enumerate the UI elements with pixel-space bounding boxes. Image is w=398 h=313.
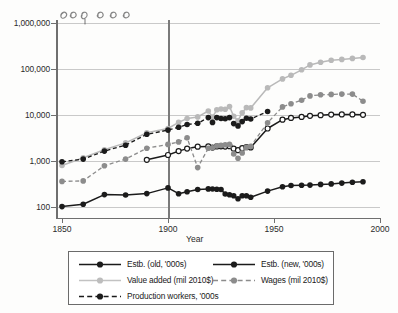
series-wages-mil-2010: [59, 91, 366, 184]
data-point: [176, 120, 182, 126]
data-point: [329, 112, 334, 117]
data-point: [235, 155, 241, 161]
data-point: [248, 143, 254, 149]
data-point: [176, 139, 182, 145]
data-point: [280, 117, 285, 122]
data-point: [227, 142, 233, 148]
data-point: [288, 101, 294, 107]
data-point: [206, 108, 212, 114]
legend-swatch-production-workers: [77, 290, 123, 303]
data-point: [248, 116, 254, 122]
legend-label-wages: Wages (mil 2010$): [261, 275, 328, 285]
data-point: [176, 149, 181, 154]
data-point: [350, 180, 356, 186]
handwritten-scribble-icon: [58, 8, 178, 26]
data-point: [265, 126, 270, 131]
data-point: [339, 180, 345, 186]
legend-label-production-workers: Production workers, '000s: [127, 291, 218, 301]
series-layer: [0, 0, 398, 240]
data-point: [123, 142, 129, 148]
data-point: [307, 182, 313, 188]
data-point: [80, 156, 86, 162]
data-point: [318, 92, 324, 98]
data-point: [328, 92, 334, 98]
data-point: [176, 125, 182, 131]
data-point: [59, 159, 65, 165]
data-point: [350, 91, 356, 97]
data-point: [318, 113, 323, 118]
data-point: [280, 184, 286, 190]
data-point: [265, 120, 271, 126]
data-point: [123, 156, 129, 162]
data-point: [360, 98, 366, 104]
data-point: [80, 201, 86, 207]
data-point: [235, 123, 241, 129]
data-point: [299, 114, 304, 119]
data-point: [123, 192, 129, 198]
series-estb-new-000s: [144, 112, 365, 162]
data-point: [350, 112, 355, 117]
data-point: [280, 76, 286, 82]
data-point: [165, 142, 171, 148]
data-point: [339, 112, 344, 117]
data-point: [227, 115, 233, 121]
data-point: [339, 91, 345, 97]
data-point: [307, 62, 313, 68]
data-point: [166, 153, 171, 158]
legend-label-estb-new: Estb. (new, '000s): [261, 259, 324, 269]
data-point: [231, 151, 237, 157]
data-point: [299, 97, 305, 103]
data-point: [165, 127, 171, 133]
data-point: [318, 182, 324, 188]
data-point: [350, 56, 356, 62]
data-point: [239, 110, 245, 116]
data-point: [184, 135, 190, 141]
data-point: [184, 116, 190, 122]
data-point: [308, 113, 313, 118]
data-point: [318, 60, 324, 66]
data-point: [239, 150, 245, 156]
data-point: [288, 73, 294, 79]
data-point: [195, 144, 200, 149]
data-point: [185, 146, 190, 151]
series-estb-old-000s: [59, 179, 366, 210]
data-point: [102, 163, 108, 169]
legend-swatch-estb-old: [77, 258, 123, 271]
data-point: [59, 179, 65, 185]
data-point: [361, 112, 366, 117]
legend-label-value-added: Value added (mil 2010$): [127, 275, 213, 285]
data-point: [288, 183, 294, 189]
data-point: [102, 192, 108, 198]
legend-swatch-value-added: [77, 274, 123, 287]
data-point: [328, 181, 334, 187]
plot-area: 1,000,000 100,000 10,000 1,000 100 1850 …: [0, 0, 398, 240]
data-point: [227, 104, 233, 110]
legend-swatch-estb-new: [211, 258, 257, 271]
data-point: [299, 183, 305, 189]
data-point: [195, 114, 201, 120]
data-point: [165, 185, 171, 191]
data-point: [265, 85, 271, 91]
data-point: [280, 104, 286, 110]
legend-swatch-wages: [211, 274, 257, 287]
data-point: [218, 187, 224, 193]
data-point: [339, 57, 345, 63]
data-point: [265, 109, 271, 115]
data-point: [299, 67, 305, 73]
data-point: [195, 187, 201, 193]
data-point: [184, 122, 190, 128]
data-point: [248, 105, 254, 111]
chart-figure: 1,000,000 100,000 10,000 1,000 100 1850 …: [0, 0, 398, 313]
data-point: [102, 148, 108, 154]
data-point: [176, 191, 182, 197]
data-point: [184, 189, 190, 195]
data-point: [144, 132, 150, 138]
data-point: [144, 191, 150, 197]
data-point: [80, 178, 86, 184]
data-point: [206, 115, 212, 121]
data-point: [195, 121, 201, 127]
data-point: [360, 179, 366, 185]
data-point: [265, 188, 271, 194]
data-point: [59, 204, 65, 210]
data-point: [307, 93, 313, 99]
